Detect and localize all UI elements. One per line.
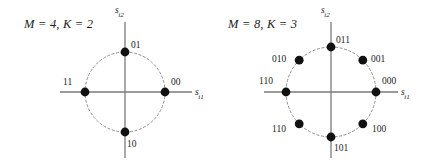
- x-axis-label-left: si1: [195, 88, 204, 100]
- panel-title-right: M = 8, K = 3: [228, 18, 297, 31]
- point-label-text: 101: [334, 143, 348, 153]
- y-axis-subscript-left: i2: [118, 11, 123, 19]
- constellation-point: [81, 88, 90, 97]
- point-label-11: 11: [63, 78, 72, 88]
- figure-canvas: M = 4, K = 2 si2 si1 00 01 11 10 M = 8, …: [0, 0, 430, 164]
- point-label-001: 001: [371, 55, 385, 65]
- point-label-110-lower: 110: [272, 125, 286, 135]
- point-label-text: 001: [371, 54, 385, 64]
- constellation-point: [358, 56, 367, 65]
- panel-right-geometry: [264, 22, 398, 158]
- point-label-110-left: 110: [259, 77, 273, 87]
- point-label-01: 01: [131, 41, 141, 51]
- point-label-text: 00: [171, 77, 181, 87]
- y-axis-subscript-right: i2: [324, 11, 329, 19]
- panel-title-left: M = 4, K = 2: [24, 18, 93, 31]
- panel-left-geometry: [60, 22, 192, 158]
- constellation-point: [327, 43, 336, 52]
- x-axis-subscript-right: i1: [404, 93, 409, 101]
- point-label-text: 11: [63, 77, 72, 87]
- point-label-text: 100: [372, 124, 386, 134]
- point-label-text: 011: [336, 35, 350, 45]
- point-label-00: 00: [171, 78, 181, 88]
- y-axis-label-right: si2: [321, 6, 330, 18]
- point-label-011: 011: [336, 36, 350, 46]
- point-label-010: 010: [272, 55, 286, 65]
- constellation-point: [358, 119, 367, 128]
- panel-right-title-text: M = 8, K = 3: [228, 17, 297, 31]
- point-label-10: 10: [127, 140, 137, 150]
- point-label-text: 110: [259, 76, 273, 86]
- constellation-point: [121, 128, 130, 137]
- constellation-point: [282, 88, 291, 97]
- constellation-point: [295, 119, 304, 128]
- constellation-point: [121, 48, 130, 57]
- point-label-text: 010: [272, 54, 286, 64]
- point-label-text: 110: [272, 124, 286, 134]
- panel-left-title-text: M = 4, K = 2: [24, 17, 93, 31]
- point-label-text: 01: [131, 40, 141, 50]
- x-axis-subscript-left: i1: [198, 93, 203, 101]
- point-label-100: 100: [372, 125, 386, 135]
- constellation-point: [295, 56, 304, 65]
- constellation-point: [327, 133, 336, 142]
- x-axis-label-right: si1: [401, 88, 410, 100]
- constellation-point: [372, 88, 381, 97]
- point-label-101: 101: [334, 144, 348, 154]
- y-axis-label-left: si2: [115, 6, 124, 18]
- point-label-000: 000: [382, 77, 396, 87]
- constellation-point: [161, 88, 170, 97]
- point-label-text: 000: [382, 76, 396, 86]
- point-label-text: 10: [127, 139, 137, 149]
